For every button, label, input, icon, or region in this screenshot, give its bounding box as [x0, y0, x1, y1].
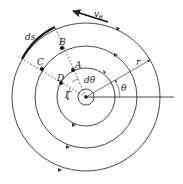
- label-ds: ds: [25, 32, 36, 42]
- label-d: D: [56, 73, 64, 83]
- point-c: [40, 67, 44, 71]
- label-r: r: [136, 57, 141, 67]
- label-theta: θ: [121, 83, 127, 93]
- label-c: C: [37, 57, 44, 67]
- arrowhead-icon: [58, 168, 62, 172]
- velocity-arrow: [73, 11, 108, 22]
- theta-arc: [115, 80, 120, 97]
- radius-arrow: [86, 60, 150, 97]
- label-dtheta: dθ: [84, 75, 96, 85]
- vortex-diagram: vθ ds B C A D dθ Γ r θ: [0, 0, 183, 184]
- label-b: B: [58, 37, 66, 47]
- label-gamma: Γ: [64, 90, 72, 100]
- label-a: A: [74, 60, 82, 70]
- dtheta-arc: [72, 79, 78, 82]
- label-velocity: vθ: [94, 9, 103, 20]
